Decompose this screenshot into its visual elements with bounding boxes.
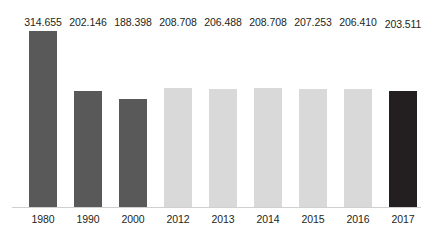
- bar[interactable]: [164, 88, 192, 207]
- bar[interactable]: [209, 89, 237, 207]
- x-axis-tick-label: 2016: [336, 212, 380, 226]
- bar-group-1990[interactable]: 202.146: [74, 31, 102, 207]
- x-axis-line: [12, 207, 421, 208]
- x-axis-tick-label: 1990: [66, 212, 110, 226]
- x-axis-tick-label: 2012: [156, 212, 200, 226]
- x-axis-tick-label: 2015: [291, 212, 335, 226]
- bar[interactable]: [254, 88, 282, 207]
- x-axis-tick-label: 2017: [381, 212, 425, 226]
- bar-value-label: 208.708: [159, 16, 196, 28]
- bar-group-2015[interactable]: 207.253: [299, 31, 327, 207]
- bar-value-label: 206.488: [204, 16, 241, 28]
- x-axis-tick-label: 2000: [111, 212, 155, 226]
- bar[interactable]: [344, 89, 372, 207]
- bar-value-label: 202.146: [69, 16, 106, 28]
- bar-value-label: 314.655: [24, 16, 61, 28]
- bar-group-2017[interactable]: 203.511: [389, 31, 417, 207]
- bar-group-2016[interactable]: 206.410: [344, 31, 372, 207]
- bar-value-label: 188.398: [114, 16, 151, 28]
- bar-group-2013[interactable]: 206.488: [209, 31, 237, 207]
- x-axis-tick-label: 2014: [246, 212, 290, 226]
- bar-value-label: 208.708: [249, 16, 286, 28]
- plot-area: 314.655 202.146 188.398 208.708 206.488 …: [0, 0, 435, 238]
- bar-value-label: 203.511: [385, 18, 421, 30]
- bar-chart: 314.655 202.146 188.398 208.708 206.488 …: [0, 0, 435, 238]
- bar-group-2014[interactable]: 208.708: [254, 31, 282, 207]
- bar-value-label: 207.253: [294, 16, 331, 28]
- bar[interactable]: [74, 91, 102, 207]
- bar[interactable]: [389, 91, 417, 207]
- bar[interactable]: [119, 99, 147, 207]
- x-axis-tick-label: 1980: [21, 212, 65, 226]
- bar[interactable]: [299, 89, 327, 207]
- bar-group-2012[interactable]: 208.708: [164, 31, 192, 207]
- bar[interactable]: [29, 31, 57, 207]
- bar-group-2000[interactable]: 188.398: [119, 31, 147, 207]
- bar-value-label: 206.410: [339, 16, 376, 28]
- bar-group-1980[interactable]: 314.655: [29, 31, 57, 207]
- x-axis-tick-label: 2013: [201, 212, 245, 226]
